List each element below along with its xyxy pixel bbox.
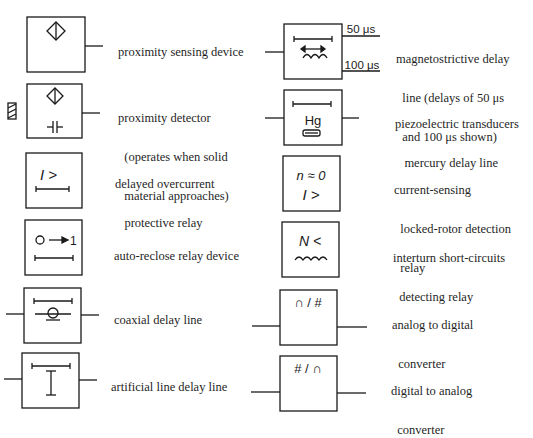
label-line: current-sensing (394, 184, 511, 197)
piezoelectric-transducer-icon (303, 130, 320, 136)
magnetostrictive-icon (301, 46, 327, 58)
symbol-box (282, 222, 339, 277)
reclose-target-glyph: 1 (70, 234, 77, 248)
coil-icon (295, 257, 327, 260)
label-coaxial-delay-line: coaxial delay line (114, 288, 202, 340)
interturn-glyph: N < (299, 233, 321, 249)
coaxial-delay-line-symbol (6, 288, 99, 343)
output-label-50us: 50 μs (347, 23, 376, 35)
delay-bar-icon (293, 101, 331, 107)
proximity-diamond-icon (47, 88, 63, 104)
dac-glyph: # / ∩ (294, 361, 321, 376)
label-line: auto-reclose relay device (114, 250, 239, 263)
interturn-short-circuit-relay-symbol (282, 222, 339, 277)
overcurrent-glyph: I > (40, 166, 57, 183)
label-line: delayed overcurrent (115, 178, 215, 191)
proximity-detector-symbol (8, 84, 100, 138)
label-line: artificial line delay line (111, 381, 227, 394)
artificial-line-delay-line-symbol (4, 353, 97, 408)
locked-rotor-glyph-bottom: I > (302, 186, 319, 203)
locked-rotor-glyph-top: n ≈ 0 (297, 168, 327, 183)
symbol-box (24, 288, 81, 343)
label-line: magnetostrictive delay (396, 53, 510, 66)
label-line: converter (391, 424, 472, 437)
delay-bar-icon (34, 298, 72, 304)
label-line: interturn short-circuits (393, 252, 505, 265)
proximity-diamond-icon (47, 22, 65, 40)
capacitor-icon (47, 121, 63, 133)
delay-bar-icon (35, 255, 73, 261)
label-line: proximity detector (118, 112, 229, 125)
reclose-circle-icon (36, 236, 44, 244)
i-beam-icon (46, 371, 56, 395)
delay-bar-icon (32, 363, 70, 369)
label-artificial-line-delay-line: artificial line delay line (111, 355, 227, 407)
proximity-sensing-device-symbol (27, 17, 103, 72)
label-line: piezoelectric transducers (395, 118, 519, 131)
delay-bar-icon (36, 186, 69, 192)
delay-bar-icon (294, 36, 332, 42)
arrow-right-icon (49, 237, 68, 243)
label-line: coaxial delay line (114, 314, 202, 327)
adc-glyph: ∩ / # (294, 295, 322, 310)
symbol-box (284, 24, 342, 79)
label-line: proximity sensing device (118, 46, 244, 59)
solid-material-hatch-icon (8, 103, 16, 119)
label-dac: digital to analog converter (391, 359, 472, 438)
label-proximity-sensing-device: proximity sensing device (118, 20, 244, 72)
output-label-100us: 100 μs (345, 59, 380, 71)
label-line: analog to digital (392, 319, 473, 332)
mercury-glyph: Hg (305, 113, 322, 128)
coaxial-cable-icon (35, 308, 71, 320)
label-auto-reclose-relay: auto-reclose relay device (114, 224, 239, 276)
label-line: digital to analog (391, 385, 472, 398)
